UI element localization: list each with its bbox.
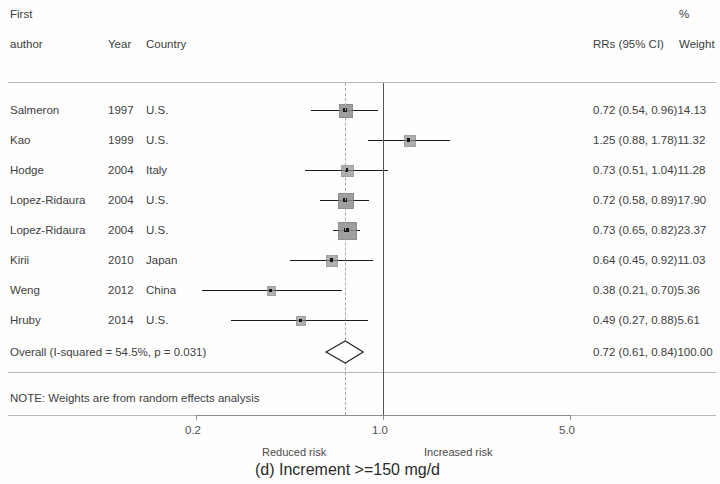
effect-marker-center [269, 289, 272, 292]
overall-label: Overall (I-squared = 54.5%, p = 0.031) [10, 346, 206, 359]
rule-top [8, 82, 716, 83]
study-country: U.S. [146, 314, 168, 327]
study-year: 1997 [108, 104, 134, 117]
study-country: U.S. [146, 104, 168, 117]
weights-note: NOTE: Weights are from random effects an… [10, 392, 259, 405]
study-estimate: 0.72 (0.58, 0.89)17.90 [593, 194, 706, 207]
header-effect: RRs (95% CI) [593, 38, 664, 51]
effect-marker-center [407, 138, 410, 141]
axis-tick-label: 1.0 [372, 424, 388, 436]
effect-marker-center [299, 319, 302, 322]
study-name: Hodge [10, 164, 44, 177]
study-estimate: 1.25 (0.88, 1.78)11.32 [593, 134, 705, 147]
header-weight: Weight [679, 38, 715, 51]
study-country: U.S. [146, 134, 168, 147]
rule-middle [8, 372, 716, 373]
reduced-risk-label: Reduced risk [262, 446, 326, 458]
axis-tick [383, 415, 384, 420]
study-name: Weng [10, 284, 40, 297]
study-year: 2004 [108, 164, 134, 177]
header-percent: % [679, 8, 689, 21]
axis-tick-label: 5.0 [559, 424, 575, 436]
study-year: 2010 [108, 254, 134, 267]
header-year: Year [108, 38, 131, 51]
overall-estimate: 0.72 (0.61, 0.84)100.00 [593, 346, 713, 359]
axis-tick [196, 415, 197, 420]
study-country: Japan [146, 254, 177, 267]
header-first: First [10, 8, 32, 21]
study-name: Salmeron [10, 104, 59, 117]
study-year: 2004 [108, 194, 134, 207]
study-year: 2014 [108, 314, 134, 327]
study-country: Italy [146, 164, 167, 177]
study-estimate: 0.49 (0.27, 0.88)5.61 [593, 314, 700, 327]
axis-tick-label: 0.2 [185, 424, 201, 436]
study-name: Lopez-Ridaura [10, 194, 85, 207]
figure-caption: (d) Increment >=150 mg/d [255, 461, 440, 479]
study-country: U.S. [146, 224, 168, 237]
header-country: Country [146, 38, 186, 51]
effect-marker-center [330, 258, 333, 261]
summary-diamond [322, 338, 367, 366]
study-country: U.S. [146, 194, 168, 207]
axis-tick [570, 415, 571, 420]
study-estimate: 0.72 (0.54, 0.96)14.13 [593, 104, 706, 117]
study-name: Kirii [10, 254, 29, 267]
study-name: Hruby [10, 314, 41, 327]
study-estimate: 0.73 (0.65, 0.82)23.37 [593, 224, 706, 237]
null-effect-line [383, 83, 384, 415]
study-year: 1999 [108, 134, 134, 147]
study-estimate: 0.64 (0.45, 0.92)11.03 [593, 254, 705, 267]
study-estimate: 0.73 (0.51, 1.04)11.28 [593, 164, 705, 177]
study-year: 2004 [108, 224, 134, 237]
forest-plot-figure: First author Year Country % RRs (95% CI)… [0, 0, 720, 484]
header-author: author [10, 38, 43, 51]
study-year: 2012 [108, 284, 134, 297]
study-estimate: 0.38 (0.21, 0.70)5.36 [593, 284, 700, 297]
increased-risk-label: Increased risk [424, 446, 492, 458]
study-name: Lopez-Ridaura [10, 224, 85, 237]
study-name: Kao [10, 134, 30, 147]
study-country: China [146, 284, 176, 297]
